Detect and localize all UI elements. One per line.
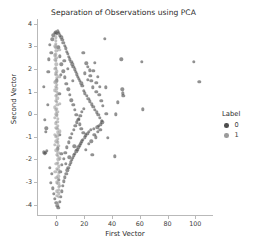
scatter-point xyxy=(57,206,60,209)
scatter-point xyxy=(99,99,102,102)
scatter-point xyxy=(80,127,83,130)
scatter-point xyxy=(67,141,70,144)
y-tick-label: 0 xyxy=(28,110,32,118)
x-tick-mark xyxy=(140,216,141,219)
scatter-point xyxy=(122,94,125,97)
y-tick-label: -1 xyxy=(26,133,32,141)
scatter-point xyxy=(82,51,85,54)
x-axis-label: First Vector xyxy=(37,230,213,238)
scatter-point xyxy=(103,37,106,40)
scatter-point xyxy=(121,88,124,91)
scatter-point xyxy=(98,93,101,96)
x-tick-mark xyxy=(195,216,196,219)
scatter-point xyxy=(80,110,83,113)
legend-entries: 01 xyxy=(222,121,240,140)
y-tick-mark xyxy=(34,114,37,115)
x-tick-mark xyxy=(168,216,169,219)
scatter-point xyxy=(67,166,70,169)
scatter-point xyxy=(58,129,61,132)
scatter-point xyxy=(73,108,76,111)
scatter-point xyxy=(61,184,64,187)
legend-item[interactable]: 1 xyxy=(222,131,240,140)
scatter-point xyxy=(47,58,50,61)
y-tick-label: 1 xyxy=(28,88,32,96)
scatter-point xyxy=(48,43,51,46)
scatter-point xyxy=(58,102,61,105)
scatter-point xyxy=(66,88,69,91)
scatter-point xyxy=(90,140,93,143)
legend: Label 01 xyxy=(222,110,240,140)
scatter-point xyxy=(91,69,94,72)
scatter-point xyxy=(44,127,47,130)
scatter-point xyxy=(94,136,97,139)
scatter-point xyxy=(113,155,116,158)
x-tick-label: 60 xyxy=(136,220,144,228)
legend-item[interactable]: 0 xyxy=(222,121,240,130)
scatter-point xyxy=(58,92,61,95)
scatter-point xyxy=(62,157,65,160)
scatter-point xyxy=(104,86,107,89)
legend-marker-icon xyxy=(224,123,229,128)
scatter-point xyxy=(63,76,66,79)
scatter-point xyxy=(63,175,66,178)
scatter-point xyxy=(58,55,61,58)
scatter-point xyxy=(82,107,85,110)
y-tick-label: 2 xyxy=(28,65,32,73)
scatter-point xyxy=(66,67,69,70)
scatter-point xyxy=(71,79,74,82)
scatter-point xyxy=(98,85,101,88)
scatter-point xyxy=(93,61,96,64)
x-tick-label: 80 xyxy=(163,220,171,228)
scatter-point xyxy=(89,74,92,77)
y-tick-mark xyxy=(34,92,37,93)
scatter-point xyxy=(65,146,68,149)
scatter-point xyxy=(61,69,64,72)
chart-title: Separation of Observations using PCA xyxy=(37,8,210,17)
scatter-point xyxy=(71,103,74,106)
scatter-point xyxy=(70,98,73,101)
x-tick-label: 100 xyxy=(189,220,201,228)
scatter-point xyxy=(64,151,67,154)
legend-item-label: 0 xyxy=(235,122,239,129)
y-tick-mark xyxy=(34,182,37,183)
scatter-point xyxy=(89,79,92,82)
scatter-point xyxy=(62,180,65,183)
y-tick-label: -2 xyxy=(26,155,32,163)
y-tick-mark xyxy=(34,159,37,160)
scatter-point xyxy=(83,72,86,75)
scatter-point xyxy=(96,75,99,78)
scatter-point xyxy=(70,132,73,135)
scatter-point xyxy=(106,136,109,139)
scatter-point xyxy=(99,128,102,131)
y-tick-mark xyxy=(34,205,37,206)
scatter-point xyxy=(53,197,56,200)
scatter-point xyxy=(60,190,63,193)
plot-area xyxy=(37,19,212,215)
y-tick-label: -4 xyxy=(26,201,32,209)
scatter-point xyxy=(58,48,61,51)
y-axis-label: Second Vector xyxy=(10,49,18,149)
scatter-point xyxy=(84,148,87,151)
scatter-point xyxy=(65,82,68,85)
scatter-point xyxy=(114,112,117,115)
scatter-point xyxy=(48,166,51,169)
scatter-point xyxy=(60,152,63,155)
scatter-point xyxy=(192,60,195,63)
scatter-point xyxy=(43,118,46,121)
scatter-point xyxy=(63,59,66,62)
x-tick-label: 0 xyxy=(54,220,58,228)
scatter-point xyxy=(60,163,63,166)
scatter-point xyxy=(69,136,72,139)
x-tick-label: 40 xyxy=(108,220,116,228)
scatter-point xyxy=(68,163,71,166)
y-tick-mark xyxy=(34,69,37,70)
scatter-point xyxy=(120,58,123,61)
scatter-point xyxy=(105,112,108,115)
y-tick-mark xyxy=(34,24,37,25)
scatter-point xyxy=(72,128,75,131)
scatter-point xyxy=(95,81,98,84)
scatter-point xyxy=(74,124,77,127)
scatter-point xyxy=(68,93,71,96)
y-tick-label: -3 xyxy=(26,178,32,186)
scatter-point xyxy=(79,114,82,117)
